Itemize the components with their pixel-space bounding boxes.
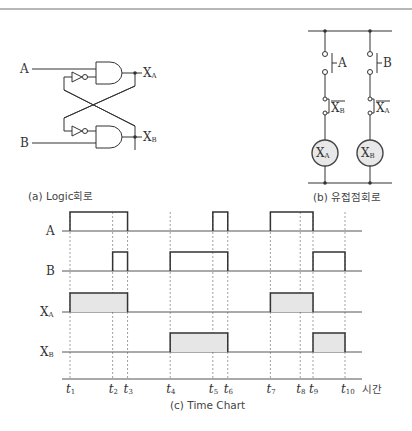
cross-wire-2 — [64, 86, 135, 118]
output-xa-label: XA — [143, 66, 158, 80]
contact-terminal — [368, 97, 372, 101]
caption-timechart: (c) Time Chart — [170, 399, 245, 411]
tick-label-t3: t3 — [124, 382, 133, 396]
pulse-fill-xb-2 — [313, 333, 345, 352]
tick-label-t2: t2 — [109, 382, 118, 396]
nc-contact-xa-label: XA — [376, 101, 391, 115]
junction — [368, 181, 372, 185]
time-chart: ABXAXBt1t2t3t4t5t6t7t8t9t10시간 — [40, 212, 382, 396]
pulse-b-2 — [170, 252, 228, 271]
relay-rung-b: B XA XB — [357, 29, 392, 185]
contact-terminal — [368, 52, 373, 57]
logic-circuit: A XA B XB — [19, 62, 158, 150]
nc-contact-xb-label: XB — [331, 101, 345, 115]
caption-logic: (a) Logic회로 — [28, 190, 93, 202]
and-gate-a — [96, 62, 122, 84]
signal-label-xb: XB — [40, 345, 54, 359]
not-gate-b — [72, 126, 82, 136]
contact-terminal — [368, 70, 373, 75]
tick-label-t1: t1 — [66, 382, 75, 396]
not-bubble-b — [83, 129, 88, 134]
pulse-b-3 — [313, 252, 345, 271]
nc-contact-xa — [372, 99, 374, 113]
relay-circuit: A XB XA B XA — [308, 29, 392, 185]
contact-terminal — [368, 111, 372, 115]
diagram-canvas: A XA B XB (a) Logic회로 — [0, 0, 412, 431]
tick-label-t8: t8 — [296, 382, 305, 396]
not-bubble-a — [83, 75, 88, 80]
pulse-fill-xa-1 — [70, 293, 128, 312]
input-b-label: B — [20, 136, 29, 150]
signal-label-xa: XA — [40, 305, 55, 319]
caption-relay: (b) 유접점회로 — [313, 191, 381, 203]
pulse-b-1 — [113, 252, 128, 271]
not-gate-a — [72, 72, 82, 82]
tick-label-t9: t9 — [309, 382, 318, 396]
pulse-fill-xb-1 — [170, 333, 228, 352]
pulse-a-1 — [70, 212, 128, 231]
contact-terminal — [323, 52, 328, 57]
signal-label-a: A — [45, 224, 55, 238]
pulse-fill-xa-2 — [270, 293, 313, 312]
tick-label-t4: t4 — [166, 382, 176, 396]
tick-label-t5: t5 — [209, 382, 218, 396]
switch-b-label: B — [383, 56, 392, 70]
contact-terminal — [323, 111, 327, 115]
junction-b — [133, 135, 137, 139]
junction — [323, 181, 327, 185]
cross-wire-1 — [64, 90, 135, 126]
pulse-a-2 — [213, 212, 228, 231]
tick-label-t7: t7 — [266, 382, 275, 396]
contact-terminal — [323, 70, 328, 75]
pulse-a-3 — [270, 212, 313, 231]
input-a-label: A — [19, 62, 29, 76]
contact-terminal — [323, 97, 327, 101]
tick-label-t10: t10 — [341, 382, 355, 396]
tick-label-t6: t6 — [224, 382, 234, 396]
switch-a-label: A — [337, 56, 347, 70]
output-xb-label: XB — [143, 130, 157, 144]
time-axis-label: 시간 — [362, 383, 382, 395]
signal-label-b: B — [46, 264, 55, 278]
relay-rung-a: A XB XA — [312, 29, 347, 185]
nc-contact-xb — [327, 99, 329, 113]
and-gate-b — [96, 126, 122, 148]
